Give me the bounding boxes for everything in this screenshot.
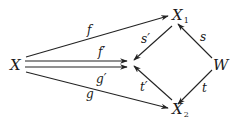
diagram-canvas: X X1 X2 W f f′ g′ g s′ t′ s t [0, 0, 238, 122]
node-w: W [213, 56, 230, 74]
label-f: f [86, 23, 94, 37]
edge-t [178, 70, 212, 104]
label-f-prime: f′ [97, 45, 105, 59]
label-g: g [86, 87, 94, 101]
node-x1: X1 [171, 6, 189, 25]
edge-s [178, 24, 212, 58]
label-t-prime: t′ [140, 80, 148, 94]
node-x2: X2 [171, 100, 189, 119]
edge-s-prime [134, 26, 172, 60]
label-s: s [200, 30, 206, 44]
label-s-prime: s′ [141, 32, 150, 46]
label-t: t [202, 81, 207, 95]
node-x: X [9, 56, 22, 74]
label-g-prime: g′ [96, 72, 107, 86]
